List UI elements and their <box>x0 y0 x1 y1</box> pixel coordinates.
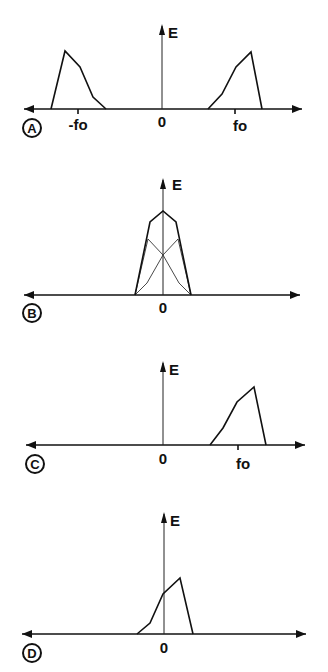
arrow-right-icon <box>296 630 306 638</box>
y-axis-label: E <box>172 176 182 193</box>
spectrum-band <box>210 387 266 445</box>
arrow-up-icon <box>160 361 166 372</box>
origin-label: 0 <box>158 113 166 130</box>
spectrum-figure: E -fo 0 fo A E 0 B E 0 fo <box>0 0 328 672</box>
y-axis-label: E <box>168 24 178 41</box>
arrow-right-icon <box>290 291 300 299</box>
origin-label: 0 <box>160 639 168 656</box>
arrow-up-icon <box>161 512 167 523</box>
arrow-left-icon <box>22 630 32 638</box>
panel-label: C <box>30 457 40 472</box>
y-axis-label: E <box>170 512 180 529</box>
panel-a: E -fo 0 fo A <box>23 24 302 137</box>
spectrum-band <box>137 578 193 634</box>
panel-label: B <box>27 306 36 321</box>
panel-b: E 0 B <box>23 176 300 322</box>
arrow-right-icon <box>292 105 302 113</box>
arrow-up-icon <box>160 178 166 189</box>
arrow-right-icon <box>295 441 305 449</box>
panel-label: A <box>27 121 37 136</box>
y-axis-label: E <box>169 361 179 378</box>
arrow-left-icon <box>24 105 34 113</box>
origin-label: 0 <box>159 299 167 316</box>
arrow-left-icon <box>26 441 36 449</box>
arrow-left-icon <box>24 291 34 299</box>
panel-c: E 0 fo C <box>26 361 305 473</box>
tick-label-pos-fo: fo <box>236 455 250 472</box>
tick-label-neg-fo: -fo <box>68 116 87 133</box>
origin-label: 0 <box>159 450 167 467</box>
arrow-up-icon <box>159 24 165 35</box>
tick-label-pos-fo: fo <box>233 117 247 134</box>
panel-label: D <box>27 646 36 661</box>
spectrum-negative-band <box>51 51 106 109</box>
panel-d: E 0 D <box>22 512 306 662</box>
spectrum-positive-band <box>208 52 262 109</box>
